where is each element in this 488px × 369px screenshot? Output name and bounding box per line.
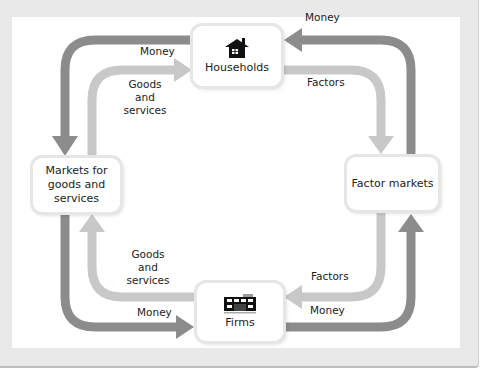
arrowhead-icon <box>398 214 424 232</box>
arrowhead-icon <box>52 136 78 156</box>
factory-icon <box>223 294 257 314</box>
goods-markets-node: Markets for goods and services <box>33 158 120 212</box>
flow-label-bottom-right-money: Money <box>310 304 345 317</box>
flow-label-bottom-left-money: Money <box>137 306 172 319</box>
factor-markets-node: Factor markets <box>347 157 438 210</box>
households-node: Households <box>193 26 281 86</box>
arrowhead-icon <box>368 136 394 154</box>
flow-label-top-left-money: Money <box>140 45 175 58</box>
flow-label-top-right-factors: Factors <box>307 76 345 89</box>
arrowhead-icon <box>174 58 192 82</box>
households-label: Households <box>205 61 269 75</box>
arrowhead-icon <box>284 285 302 309</box>
arrowhead-icon <box>176 315 194 339</box>
factor-markets-label: Factor markets <box>352 177 434 191</box>
firms-label: Firms <box>225 316 254 330</box>
arrowhead-icon <box>79 214 105 232</box>
flow-label-top-right-money: Money <box>305 11 340 24</box>
money-arrow-factor-markets-to-households <box>300 40 411 156</box>
flow-label-bottom-right-factors: Factors <box>311 270 349 283</box>
flow-label-top-left-goods: Goods and services <box>122 78 168 117</box>
house-icon <box>224 37 250 59</box>
factors-arrow-factor-markets-to-firms <box>300 210 381 297</box>
arrowhead-icon <box>284 28 302 52</box>
goods-markets-label: Markets for goods and services <box>45 164 107 206</box>
flow-label-bottom-left-goods: Goods and services <box>125 248 171 287</box>
firms-node: Firms <box>197 283 283 341</box>
